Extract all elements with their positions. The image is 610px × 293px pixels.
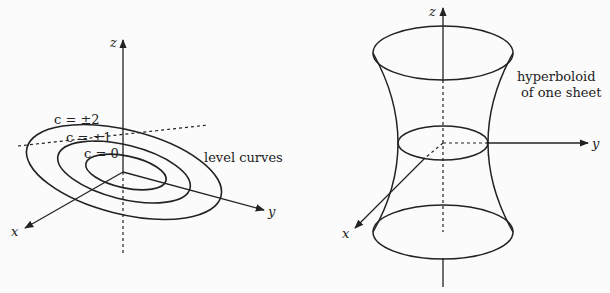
hyperboloid-annotation-line2: of one sheet — [521, 85, 602, 100]
x-axis-dashed — [425, 143, 443, 158]
z-axis-label: z — [109, 35, 117, 50]
z-axis-label-right: z — [428, 4, 436, 19]
x-axis-label-right: x — [342, 226, 350, 241]
y-axis — [123, 172, 264, 210]
x-axis-label: x — [11, 224, 19, 239]
level-label-2: c = ±2 — [54, 112, 100, 127]
diagram: z y x c = ±2 c = ±1 c = 0 level curves z… — [0, 0, 610, 293]
bottom-ellipse-front — [373, 232, 513, 259]
level-label-1: c = ±1 — [66, 130, 112, 145]
hyperboloid-annotation-line1: hyperboloid — [517, 69, 596, 84]
left-profile — [373, 53, 398, 232]
y-axis-label-right: y — [591, 136, 600, 151]
level-curves-figure — [17, 40, 264, 256]
hyperboloid-figure — [355, 8, 588, 287]
level-curves-annotation: level curves — [204, 150, 283, 165]
level-label-0: c = 0 — [84, 146, 119, 161]
y-axis-label: y — [267, 204, 276, 219]
